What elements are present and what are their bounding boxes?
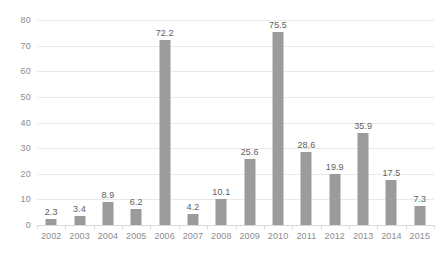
bars-layer: 2.33.48.96.272.24.210.125.675.528.619.93… [37,20,434,225]
bar[interactable] [358,133,369,225]
y-tick-label: 0 [26,220,31,230]
bar[interactable] [329,174,340,225]
bar-slot: 8.9 [94,20,122,225]
bar-slot: 25.6 [236,20,264,225]
x-tick-mark [179,225,180,229]
x-tick-label: 2003 [69,231,89,241]
x-tick-label: 2015 [410,231,430,241]
x-tick-mark [321,225,322,229]
bar-slot: 10.1 [207,20,235,225]
bar[interactable] [273,32,284,225]
x-tick-mark [377,225,378,229]
bar-slot: 17.5 [377,20,405,225]
y-axis: 01020304050607080 [0,0,37,259]
y-tick-label: 80 [21,15,31,25]
bar-value-label: 8.9 [101,190,114,200]
x-tick-label: 2007 [183,231,203,241]
bar-slot: 35.9 [349,20,377,225]
x-tick-mark [434,225,435,229]
x-tick-label: 2008 [211,231,231,241]
bar[interactable] [216,199,227,225]
bar-value-label: 4.2 [187,202,200,212]
bar-chart: 01020304050607080 2.33.48.96.272.24.210.… [0,0,446,259]
y-tick-label: 30 [21,143,31,153]
x-tick-label: 2009 [239,231,259,241]
bar-value-label: 2.3 [45,207,58,217]
x-tick-label: 2012 [325,231,345,241]
bar[interactable] [159,40,170,225]
x-tick-label: 2010 [268,231,288,241]
bar[interactable] [301,152,312,225]
y-tick-label: 50 [21,92,31,102]
bar-slot: 19.9 [321,20,349,225]
bar[interactable] [102,202,113,225]
x-tick-mark [349,225,350,229]
bar-value-label: 3.4 [73,204,86,214]
x-tick-mark [150,225,151,229]
y-tick-label: 20 [21,169,31,179]
bar-slot: 7.3 [406,20,434,225]
bar[interactable] [74,216,85,225]
bar[interactable] [244,159,255,225]
bar-slot: 2.3 [37,20,65,225]
bar-value-label: 17.5 [382,168,400,178]
y-tick-label: 10 [21,194,31,204]
x-tick-mark [207,225,208,229]
y-tick-label: 40 [21,118,31,128]
x-tick-label: 2004 [98,231,118,241]
bar-value-label: 72.2 [156,28,174,38]
x-tick-label: 2011 [297,231,317,241]
bar-slot: 6.2 [122,20,150,225]
bar[interactable] [131,209,142,225]
bar-value-label: 25.6 [241,147,259,157]
x-tick-mark [292,225,293,229]
x-tick-mark [264,225,265,229]
bar-slot: 72.2 [150,20,178,225]
x-tick-mark [122,225,123,229]
bar-slot: 4.2 [179,20,207,225]
x-tick-mark [94,225,95,229]
bar-value-label: 7.3 [413,194,426,204]
bar-value-label: 6.2 [130,197,143,207]
x-tick-label: 2005 [126,231,146,241]
bar-slot: 75.5 [264,20,292,225]
bar-value-label: 35.9 [354,121,372,131]
x-tick-label: 2014 [381,231,401,241]
y-tick-label: 70 [21,41,31,51]
bar[interactable] [414,206,425,225]
x-tick-mark [37,225,38,229]
x-tick-mark [65,225,66,229]
bar-slot: 28.6 [292,20,320,225]
bar-value-label: 19.9 [326,162,344,172]
x-tick-label: 2006 [154,231,174,241]
bar-value-label: 28.6 [297,140,315,150]
bar-slot: 3.4 [65,20,93,225]
x-tick-label: 2013 [353,231,373,241]
bar[interactable] [187,214,198,225]
x-tick-label: 2002 [41,231,61,241]
y-tick-label: 60 [21,66,31,76]
bar-value-label: 10.1 [212,187,230,197]
bar[interactable] [386,180,397,225]
x-tick-mark [236,225,237,229]
bar-value-label: 75.5 [269,20,287,30]
x-axis: 2002200320042005200620072008200920102011… [37,225,434,259]
x-tick-mark [406,225,407,229]
